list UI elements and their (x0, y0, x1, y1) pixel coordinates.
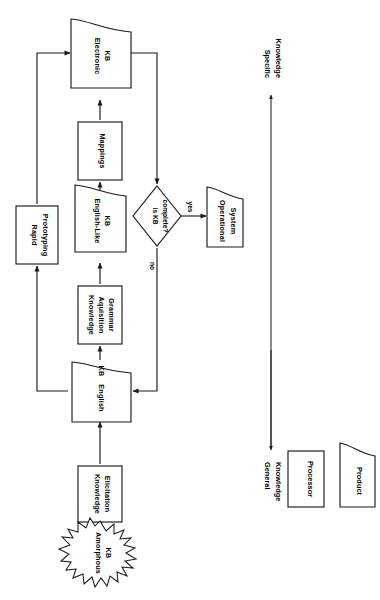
edge-english-kb-to-rapid-prototyping (37, 266, 68, 391)
axis-label-specific-knowledge-line1: Specific (263, 50, 272, 78)
diagram-canvas: Electronic KB Mappings English-Like KB K… (0, 0, 380, 600)
node-amorphous-kb[interactable]: Amorphous KB (59, 518, 136, 587)
legend-item-processor: Processor (288, 451, 324, 507)
english-like-kb-label-line1: English-Like (93, 198, 102, 243)
node-is-kb-complete[interactable]: is KB complete? (133, 186, 181, 246)
edge-label-yes: yes (186, 201, 194, 212)
amorphous-kb-label-line2: KB (104, 548, 113, 559)
legend-product-label: Product (355, 467, 364, 495)
knowledge-elicitation-label-line1: Knowledge (93, 474, 102, 514)
axis-label-specific-knowledge-line2: Knowledge (274, 39, 283, 78)
electronic-kb-label-line2: KB (103, 51, 112, 62)
node-english-kb[interactable]: English KB (72, 362, 131, 422)
rapid-prototyping-label-line2: Prototyping (41, 214, 50, 257)
node-rapid-prototyping[interactable]: Rapid Prototyping (16, 206, 58, 264)
legend: Processor Product (288, 443, 375, 507)
operational-system-label-line2: System (229, 208, 238, 235)
process-flow-diagram: Electronic KB Mappings English-Like KB K… (0, 0, 380, 600)
axis-label-general-knowledge-line2: Knowledge (274, 462, 283, 501)
knowledge-aquisition-grammar-label-line1: Knowledge (87, 295, 96, 335)
edge-electronic-kb-to-decision (131, 53, 157, 184)
node-knowledge-elicitation[interactable]: Knowledge Elicitation (78, 466, 122, 522)
operational-system-label-line1: Operational (218, 200, 227, 242)
node-english-like-kb[interactable]: English-Like KB (75, 185, 126, 252)
knowledge-axis: Specific Knowledge General Knowledge (263, 39, 283, 502)
legend-item-product: Product (340, 443, 375, 507)
edge-label-no: no (149, 262, 156, 270)
mappings-label-line1: Mappings (98, 133, 107, 168)
english-kb-label-line1: English (97, 384, 106, 411)
edge-rapid-prototyping-to-electronic-kb (37, 53, 70, 204)
english-like-kb-label-line2: KB (103, 216, 112, 227)
knowledge-elicitation-label-line2: Elicitation (103, 476, 112, 513)
rapid-prototyping-label-line1: Rapid (30, 225, 39, 246)
node-knowledge-aquisition-grammar[interactable]: Knowledge Aquisition Grammar (78, 286, 122, 344)
knowledge-aquisition-grammar-label-line2: Aquisition (97, 296, 106, 333)
legend-processor-label: Processor (306, 461, 315, 497)
is-kb-complete-label-line2: complete? (161, 200, 169, 233)
english-kb-label-line2: KB (97, 366, 106, 377)
electronic-kb-label-line1: Electronic (93, 38, 102, 75)
node-mappings[interactable]: Mappings (78, 122, 122, 180)
node-electronic-kb[interactable]: Electronic KB (71, 19, 131, 88)
amorphous-kb-label-line1: Amorphous (94, 532, 103, 574)
legend-processor-shape (288, 451, 324, 507)
is-kb-complete-label-line1: is KB (152, 208, 159, 225)
axis-label-general-knowledge-line1: General (263, 462, 272, 490)
knowledge-aquisition-grammar-label-line3: Grammar (107, 298, 116, 331)
node-operational-system[interactable]: Operational System (207, 187, 243, 247)
